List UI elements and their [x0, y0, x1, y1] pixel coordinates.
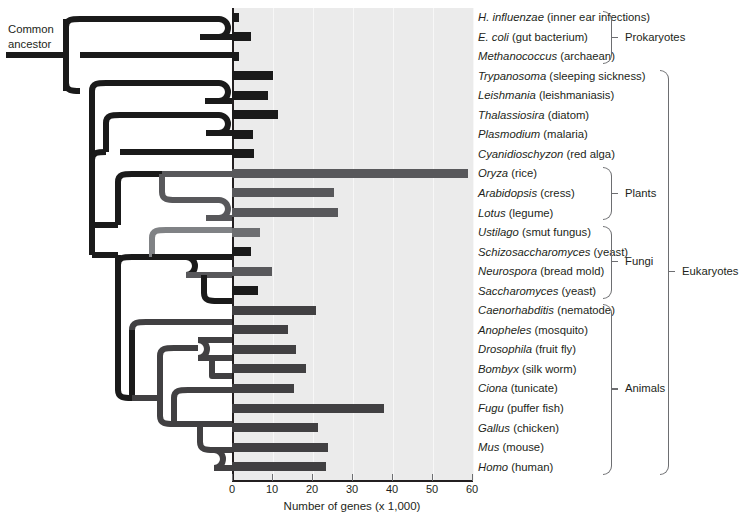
taxon-genus: Bombyx [478, 363, 519, 375]
common-ancestor-line1: Common [8, 22, 54, 37]
taxon-label: Mus (mouse) [478, 441, 544, 453]
taxon-label: Homo (human) [478, 461, 553, 473]
bar-homo [232, 462, 326, 471]
taxon-genus: Ustilago [478, 226, 519, 238]
bar-gallus [232, 423, 318, 432]
taxon-genus: H. influenzae [478, 11, 544, 23]
taxon-common-name: (tunicate) [508, 382, 558, 394]
group-label: Plants [625, 187, 656, 199]
taxon-label: Cyanidioschyzon (red alga) [478, 148, 615, 160]
group-bracket [603, 226, 612, 299]
taxon-common-name: (mouse) [499, 441, 544, 453]
x-tick-label: 10 [266, 483, 278, 495]
taxon-label: Bombyx (silk worm) [478, 363, 577, 375]
x-tick-label: 0 [229, 483, 235, 495]
group-label: Eukaryotes [682, 265, 739, 277]
bar-anopheles [232, 325, 288, 334]
taxon-label: Oryza (rice) [478, 167, 537, 179]
taxon-label: Leishmania (leishmaniasis) [478, 89, 614, 101]
taxon-label: Thalassiosira (diatom) [478, 109, 589, 121]
x-tick [352, 474, 353, 481]
taxon-common-name: (chicken) [510, 422, 559, 434]
x-tick-label: 50 [426, 483, 438, 495]
taxon-common-name: (silk worm) [519, 363, 577, 375]
group-bracket [603, 11, 612, 64]
bar-lotus [232, 208, 338, 217]
taxon-label: H. influenzae (inner ear infections) [478, 11, 650, 23]
taxon-common-name: (cress) [537, 187, 575, 199]
taxon-common-name: (yeast) [558, 285, 596, 297]
taxon-label: Methanococcus (archaean) [478, 50, 615, 62]
taxon-common-name: (malaria) [540, 128, 588, 140]
taxon-genus: Fugu [478, 402, 504, 414]
x-tick-label: 40 [386, 483, 398, 495]
taxon-common-name: (mosquito) [531, 324, 588, 336]
taxon-genus: Homo [478, 461, 508, 473]
x-tick [392, 474, 393, 481]
taxon-common-name: (red alga) [563, 148, 615, 160]
group-label: Prokaryotes [625, 31, 685, 43]
group-bracket [660, 70, 669, 475]
group-bracket-tick [612, 261, 618, 262]
taxon-genus: Mus [478, 441, 499, 453]
taxon-label: Plasmodium (malaria) [478, 128, 588, 140]
taxon-genus: Anopheles [478, 324, 531, 336]
taxon-genus: Lotus [478, 207, 506, 219]
taxon-common-name: (bread mold) [537, 265, 604, 277]
taxon-common-name: (diatom) [545, 109, 590, 121]
taxon-label: Lotus (legume) [478, 207, 553, 219]
taxon-label: Ciona (tunicate) [478, 382, 558, 394]
common-ancestor-label: Common ancestor [8, 22, 54, 52]
taxon-label: Trypanosoma (sleeping sickness) [478, 70, 645, 82]
group-bracket-tick [612, 193, 618, 194]
taxon-common-name: (legume) [506, 207, 554, 219]
x-tick [432, 474, 433, 481]
taxon-genus: E. coli [478, 31, 509, 43]
taxon-genus: Plasmodium [478, 128, 540, 140]
taxon-label: Fugu (puffer fish) [478, 402, 564, 414]
taxon-label: Drosophila (fruit fly) [478, 343, 576, 355]
bar-arabidopsis [232, 188, 334, 197]
taxon-genus: Arabidopsis [478, 187, 537, 199]
taxon-genus: Schizosaccharomyces [478, 246, 590, 258]
x-tick [312, 474, 313, 481]
group-label: Fungi [625, 255, 653, 267]
taxon-genus: Neurospora [478, 265, 537, 277]
taxon-label: Arabidopsis (cress) [478, 187, 575, 199]
taxon-genus: Saccharomyces [478, 285, 558, 297]
taxon-label: Gallus (chicken) [478, 422, 559, 434]
taxon-common-name: (fruit fly) [532, 343, 576, 355]
taxon-label: Neurospora (bread mold) [478, 265, 604, 277]
x-tick-label: 20 [306, 483, 318, 495]
group-bracket-tick [669, 271, 675, 272]
bar-bombyx [232, 364, 306, 373]
x-tick [232, 474, 233, 481]
bar-caenorhabditis [232, 306, 316, 315]
taxon-common-name: (inner ear infections) [544, 11, 650, 23]
gridline [433, 8, 434, 480]
taxon-common-name: (leishmaniasis) [536, 89, 614, 101]
x-tick-label: 60 [466, 483, 478, 495]
common-ancestor-line2: ancestor [8, 37, 54, 52]
group-bracket [603, 304, 612, 474]
taxon-common-name: (rice) [508, 167, 537, 179]
x-axis-title: Number of genes (x 1,000) [284, 500, 421, 512]
x-tick [472, 474, 473, 481]
taxon-common-name: (puffer fish) [504, 402, 564, 414]
x-tick [272, 474, 273, 481]
taxon-genus: Ciona [478, 382, 508, 394]
taxon-label: Caenorhabditis (nematode) [478, 304, 615, 316]
taxon-genus: Thalassiosira [478, 109, 545, 121]
phylogenetic-tree [0, 0, 240, 490]
gridline [473, 8, 474, 480]
group-bracket [603, 167, 612, 220]
taxon-genus: Drosophila [478, 343, 532, 355]
taxon-label: Anopheles (mosquito) [478, 324, 588, 336]
taxon-label: Saccharomyces (yeast) [478, 285, 596, 297]
taxon-label: E. coli (gut bacterium) [478, 31, 588, 43]
taxon-genus: Cyanidioschyzon [478, 148, 563, 160]
taxon-common-name: (sleeping sickness) [546, 70, 645, 82]
group-bracket-tick [612, 388, 618, 389]
bar-oryza [232, 169, 468, 178]
